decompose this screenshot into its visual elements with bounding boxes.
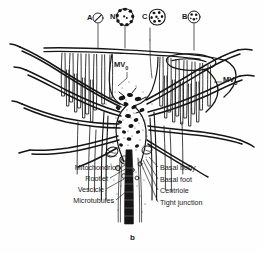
callout-centriole: Centriole [160, 187, 189, 194]
cilia-right [146, 50, 242, 170]
inset-n-axoneme-cross-section [116, 8, 135, 27]
mv-leader-lines [118, 72, 222, 86]
callout-microtubules: Microtubules [0, 197, 114, 204]
label-mv3-sub: 3 [234, 80, 237, 86]
cilia-left-tips [10, 44, 30, 153]
inset-a-cross-section [93, 13, 103, 23]
callout-basal-foot: Basal foot [160, 176, 192, 183]
callout-tight-junction: Tight junction [160, 199, 202, 206]
inset-label-b: B [182, 13, 187, 21]
cell-diagram-drawing [0, 0, 263, 253]
label-mv3: MV3 [223, 76, 237, 86]
inset-c-centriole-cross-section [149, 9, 165, 25]
label-mv0-sub: 0 [125, 65, 128, 71]
label-mv3-text: MV [223, 75, 234, 84]
cilia-left [20, 47, 121, 167]
basal-body-cluster [115, 92, 145, 154]
callout-basal-body: Basal body [160, 164, 196, 171]
inset-label-c: C [142, 13, 147, 21]
inset-label-n: N [110, 13, 115, 21]
callout-mitochondrion: Mitochondrion [0, 164, 120, 171]
rootlet-shaft [118, 150, 141, 224]
figure-caption: b [130, 234, 135, 242]
label-mv0: MV0 [114, 61, 128, 71]
inset-label-a: A [87, 14, 92, 22]
callout-vescicle: Vescicle [0, 186, 104, 193]
inset-b-basal-body-cross-section [188, 11, 200, 23]
label-mv0-text: MV [114, 60, 125, 69]
callout-rootlet: Rootlet [0, 175, 108, 182]
figure-panel-b: A N C B MV0 MV3 Mitochondrion Rootlet Ve… [0, 0, 263, 253]
